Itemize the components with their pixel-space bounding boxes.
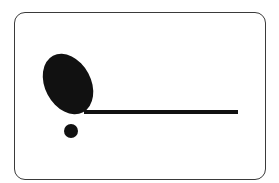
horizontal-bar-shape — [84, 110, 238, 114]
small-dot-shape — [64, 124, 78, 138]
symbol-graphic — [0, 0, 279, 183]
symbol-figure — [0, 0, 279, 183]
